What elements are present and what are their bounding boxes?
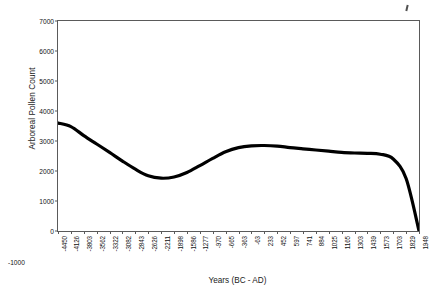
x-axis-tick-label: -970 [215,236,222,248]
x-axis-tick-label: 1165 [344,236,351,249]
y-axis-tick-label-neg1000: -1000 [8,259,25,266]
x-axis-tick-label: -1586 [190,236,197,252]
x-axis-tick-label: 233 [267,236,274,246]
x-axis-tick-label: 741 [306,236,313,246]
x-axis-tick-label: 1439 [370,236,377,250]
x-axis-tick-label: -3082 [125,236,132,252]
x-axis-tick-label: -1898 [177,236,184,252]
x-axis-tick-label: -4126 [73,236,80,252]
x-axis-tick-label: -3322 [112,236,119,252]
x-axis-tick-label: 452 [280,236,287,246]
chart-figure: Arboreal Pollen Count 700060005000400030… [0,0,448,294]
x-axis-tick-label: 1303 [357,236,364,250]
x-axis-tick-label: -63 [254,236,261,245]
x-axis-tick-label: -363 [241,236,248,248]
x-axis-tick-label: -2626 [151,236,158,252]
x-axis-tick-label: -4450 [61,236,68,252]
x-axis-tick-label: 1703 [396,236,403,250]
x-axis-ticks: -4450-4126-3803-3562-3322-3082-2843-2626… [0,0,448,294]
x-axis-tick-label: 1829 [409,236,416,250]
x-axis-tick-label: 597 [293,236,300,246]
x-axis-title: Years (BC - AD) [55,276,420,285]
x-axis-tick-label: -665 [228,236,235,248]
x-axis-tick-label: -3562 [99,236,106,252]
x-axis-tick-label: 1573 [383,236,390,250]
x-axis-tick-label: -2843 [138,236,145,252]
x-axis-tick-label: -1277 [202,236,209,252]
x-axis-tick-label: -3803 [86,236,93,252]
x-axis-tick-label: -2211 [164,236,171,251]
x-axis-tick-label: 884 [318,236,325,246]
x-axis-tick-label: 1948 [422,236,429,250]
x-axis-tick-label: 1025 [331,236,338,250]
